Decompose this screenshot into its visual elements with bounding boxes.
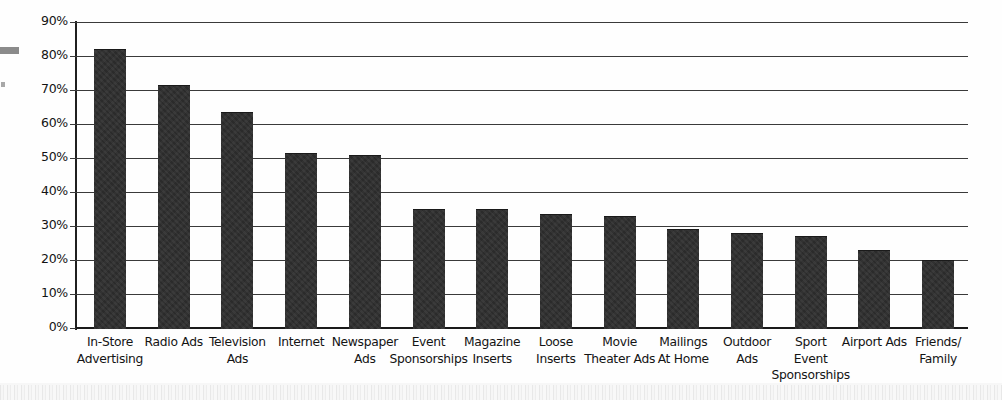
gridline-30% [76, 226, 968, 227]
gridline-90% [76, 22, 968, 23]
x-axis-label: Friends/ Family [894, 334, 982, 367]
bar [858, 250, 890, 329]
y-axis-label: 10% [10, 287, 68, 300]
bar [94, 49, 126, 329]
bar [795, 236, 827, 329]
bar [731, 233, 763, 329]
bar [221, 112, 253, 329]
bar [604, 216, 636, 329]
chart-page: 0%10%20%30%40%50%60%70%80%90% In-Store A… [0, 0, 1002, 400]
gridline-70% [76, 90, 968, 91]
y-axis-label: 40% [10, 185, 68, 198]
bar [285, 153, 317, 329]
y-axis-label: 80% [10, 49, 68, 62]
bar [349, 155, 381, 329]
y-axis-label: 50% [10, 151, 68, 164]
y-axis-label: 60% [10, 117, 68, 130]
gridline-80% [76, 56, 968, 57]
x-axis-baseline [76, 327, 968, 329]
bar-chart: 0%10%20%30%40%50%60%70%80%90% In-Store A… [0, 0, 1002, 400]
gridline-60% [76, 124, 968, 125]
gridline-20% [76, 260, 968, 261]
gridline-50% [76, 158, 968, 159]
bar [476, 209, 508, 329]
bar [540, 214, 572, 329]
y-axis-label: 20% [10, 253, 68, 266]
bar [667, 229, 699, 329]
bar [922, 260, 954, 329]
gridline-10% [76, 294, 968, 295]
plot-area [76, 22, 968, 328]
y-axis-label: 90% [10, 15, 68, 28]
y-axis-label: 30% [10, 219, 68, 232]
y-axis-label: 0% [10, 321, 68, 334]
scanned-page-edge [0, 385, 1002, 400]
gridline-40% [76, 192, 968, 193]
bar [413, 209, 445, 329]
bar [158, 85, 190, 329]
y-axis-label: 70% [10, 83, 68, 96]
